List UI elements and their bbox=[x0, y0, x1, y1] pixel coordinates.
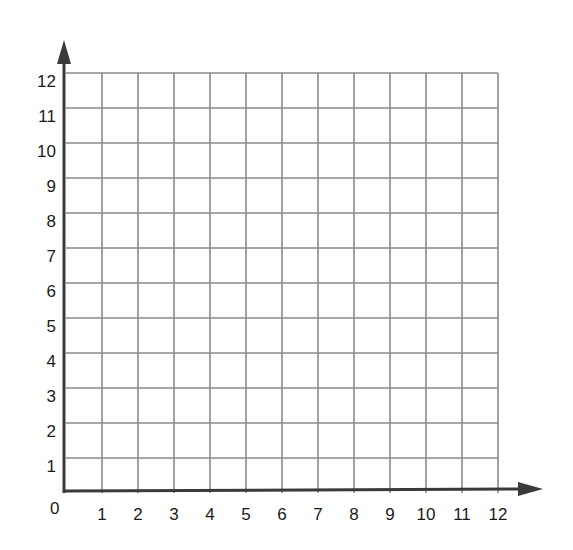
tick-labels: 0 123456789101112123456789101112 bbox=[37, 72, 507, 524]
y-tick-label: 3 bbox=[47, 387, 56, 406]
x-tick-label: 6 bbox=[277, 505, 286, 524]
y-tick-label: 7 bbox=[47, 247, 56, 266]
y-tick-label: 2 bbox=[47, 422, 56, 441]
x-tick-label: 5 bbox=[241, 505, 250, 524]
x-tick-label: 2 bbox=[133, 505, 142, 524]
y-tick-label: 4 bbox=[47, 352, 56, 371]
x-tick-label: 8 bbox=[349, 505, 358, 524]
grid-lines bbox=[66, 73, 498, 493]
y-tick-label: 5 bbox=[47, 317, 56, 336]
x-tick-label: 12 bbox=[489, 505, 508, 524]
x-axis-arrow-icon bbox=[518, 482, 543, 496]
coordinate-grid: 0 123456789101112123456789101112 bbox=[0, 0, 573, 550]
y-tick-label: 9 bbox=[47, 177, 56, 196]
y-axis-arrow-icon bbox=[57, 40, 71, 64]
y-tick-label: 8 bbox=[47, 212, 56, 231]
x-tick-label: 10 bbox=[417, 505, 436, 524]
x-tick-label: 11 bbox=[453, 505, 471, 524]
x-tick-label: 4 bbox=[205, 505, 214, 524]
y-tick-label: 6 bbox=[47, 282, 56, 301]
x-tick-label: 1 bbox=[97, 505, 106, 524]
origin-label: 0 bbox=[50, 499, 59, 518]
y-tick-label: 10 bbox=[37, 142, 56, 161]
y-tick-label: 11 bbox=[38, 107, 56, 126]
x-tick-label: 9 bbox=[385, 505, 394, 524]
y-tick-label: 12 bbox=[37, 72, 56, 91]
x-tick-label: 3 bbox=[169, 505, 178, 524]
y-tick-label: 1 bbox=[47, 457, 56, 476]
x-axis bbox=[64, 489, 525, 491]
x-tick-label: 7 bbox=[313, 505, 322, 524]
